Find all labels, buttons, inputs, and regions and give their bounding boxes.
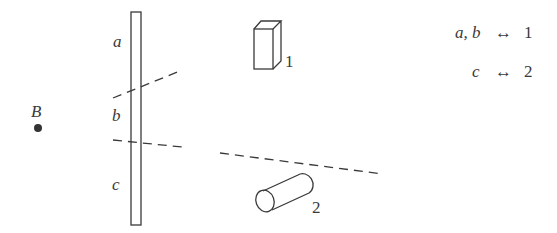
diagram-canvas: B a b c 1 2 a, b ↔ 1 c ↔ 2	[0, 0, 557, 233]
point-dot	[34, 124, 42, 132]
cylinder-object: 2	[253, 174, 321, 217]
cylinder-body	[263, 174, 313, 210]
dashed-line-lower	[113, 140, 182, 147]
box-object: 1	[254, 21, 294, 71]
cylinder-label: 2	[312, 198, 321, 217]
point-label: B	[31, 102, 42, 121]
point-b: B	[31, 102, 42, 132]
box-label: 1	[285, 52, 294, 71]
dashed-line-right	[220, 153, 383, 174]
legend-row1-left: a, b	[455, 23, 481, 42]
region-label-b: b	[112, 106, 121, 125]
region-label-a: a	[113, 32, 122, 51]
box-front-face	[254, 29, 273, 69]
legend-row2-arrow: ↔	[495, 62, 512, 81]
legend-row2-right: 2	[524, 62, 533, 81]
box-top-side	[254, 21, 281, 69]
vertical-strip	[131, 12, 141, 225]
legend-row1-arrow: ↔	[495, 23, 512, 42]
legend-row2-left: c	[472, 62, 480, 81]
legend-row1-right: 1	[524, 23, 533, 42]
cylinder-end	[253, 188, 277, 215]
dashed-line-upper	[113, 71, 180, 98]
correspondence-legend: a, b ↔ 1 c ↔ 2	[455, 23, 533, 81]
region-label-c: c	[112, 175, 120, 194]
